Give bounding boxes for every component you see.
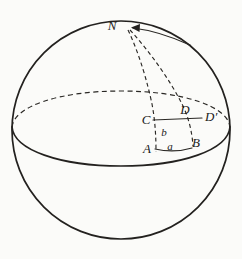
horizontal-line-C-to-D-prime xyxy=(153,118,202,120)
base-arc-A-to-B xyxy=(155,148,192,151)
sphere-diagram-canvas: N C D D′ A B b a xyxy=(0,0,242,259)
label-vertex-c: C xyxy=(142,112,151,127)
sphere-outline-circle xyxy=(12,21,230,239)
equator-back-arc-dashed xyxy=(12,91,230,127)
label-vertex-d: D xyxy=(179,102,190,117)
label-vertex-d-prime: D′ xyxy=(204,109,217,124)
label-vertex-b: B xyxy=(192,135,200,150)
label-north-pole: N xyxy=(107,18,118,33)
label-side-b: b xyxy=(161,126,167,138)
label-side-a: a xyxy=(167,140,173,152)
arrow-to-north-pole-stem xyxy=(133,28,190,45)
sphere-diagram-figure: N C D D′ A B b a xyxy=(0,0,242,259)
label-vertex-a: A xyxy=(142,141,151,156)
arrow-to-north-pole-head xyxy=(131,24,140,32)
